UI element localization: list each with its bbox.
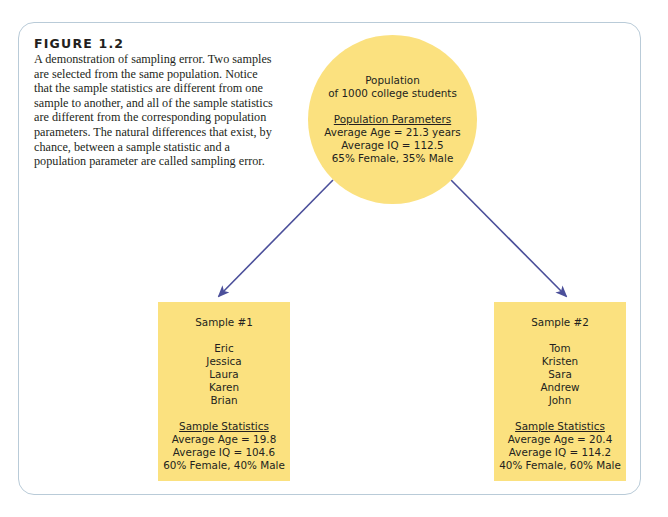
sample-1-box: Sample #1 Eric Jessica Laura Karen Brian… (158, 302, 290, 481)
sample-2-stat-age: Average Age = 20.4 (494, 433, 626, 446)
sample-1-stat-iq: Average IQ = 104.6 (158, 446, 290, 459)
population-params-heading: Population Parameters (334, 113, 451, 126)
sample-2-name: John (494, 394, 626, 407)
sample-2-stat-gender: 40% Female, 60% Male (494, 459, 626, 472)
sample-2-name: Kristen (494, 355, 626, 368)
population-param-gender: 65% Female, 35% Male (324, 152, 460, 165)
population-subtitle: of 1000 college students (328, 87, 457, 100)
sample-1-names: Eric Jessica Laura Karen Brian (158, 342, 290, 407)
sample-1-name: Karen (158, 381, 290, 394)
sample-2-names: Tom Kristen Sara Andrew John (494, 342, 626, 407)
sample-1-title: Sample #1 (158, 316, 290, 329)
sample-2-title: Sample #2 (494, 316, 626, 329)
population-circle: Population of 1000 college students Popu… (308, 35, 477, 204)
sample-1-stat-age: Average Age = 19.8 (158, 433, 290, 446)
sample-1-name: Brian (158, 394, 290, 407)
arrow-to-sample-1 (219, 180, 333, 296)
population-title: Population (365, 74, 420, 87)
sample-2-stat-iq: Average IQ = 114.2 (494, 446, 626, 459)
population-param-age: Average Age = 21.3 years (324, 126, 460, 139)
sample-2-stats-heading: Sample Statistics (494, 420, 626, 433)
sample-1-name: Laura (158, 368, 290, 381)
arrow-to-sample-2 (451, 180, 566, 296)
sample-1-name: Eric (158, 342, 290, 355)
sample-2-name: Andrew (494, 381, 626, 394)
sample-2-name: Sara (494, 368, 626, 381)
sample-1-name: Jessica (158, 355, 290, 368)
sample-2-box: Sample #2 Tom Kristen Sara Andrew John S… (494, 302, 626, 481)
sample-1-stats-heading: Sample Statistics (158, 420, 290, 433)
sample-1-stat-gender: 60% Female, 40% Male (158, 459, 290, 472)
sample-2-name: Tom (494, 342, 626, 355)
population-param-iq: Average IQ = 112.5 (324, 139, 460, 152)
